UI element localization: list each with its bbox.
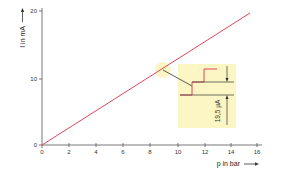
- x-tick-label: 4: [94, 149, 98, 155]
- x-tick-label: 0: [40, 149, 44, 155]
- y-tick-label: 0: [34, 142, 38, 148]
- chart: 0 10 20 0 2 4 6 8 10 12 14 16 p in bar I…: [0, 0, 283, 185]
- x-tick-label: 8: [148, 149, 152, 155]
- y-ticks: 0 10 20: [30, 8, 42, 148]
- y-tick-label: 20: [30, 8, 37, 14]
- y-tick-label: 10: [30, 76, 37, 82]
- x-tick-label: 10: [175, 149, 182, 155]
- x-tick-label: 2: [67, 149, 71, 155]
- y-axis-arrow-icon: [21, 8, 24, 22]
- x-tick-label: 14: [228, 149, 235, 155]
- x-axis-arrow-icon: [244, 162, 259, 165]
- inset-step-label: 19,5 µA: [214, 99, 222, 122]
- y-axis-label: I in mA: [19, 26, 26, 48]
- x-tick-label: 12: [202, 149, 209, 155]
- x-axis-label: p in bar: [217, 160, 241, 168]
- x-tick-label: 6: [121, 149, 125, 155]
- x-tick-label: 16: [254, 149, 261, 155]
